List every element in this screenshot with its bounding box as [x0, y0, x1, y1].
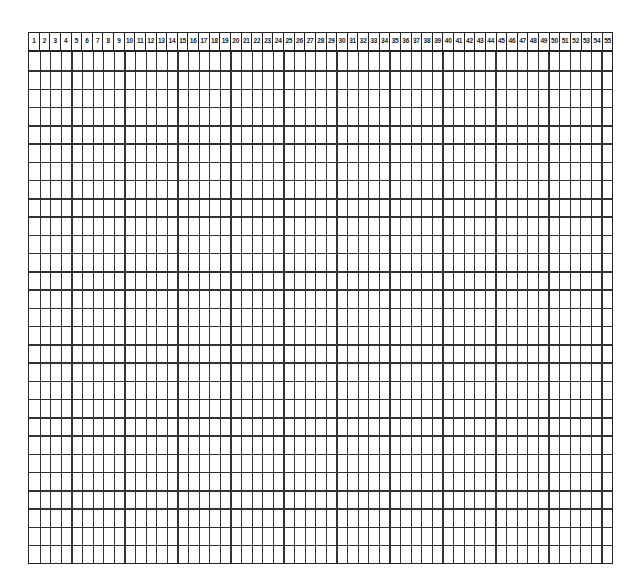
grid-horizontal-line — [29, 472, 612, 474]
grid-horizontal-line — [29, 289, 612, 291]
column-header-cell: 17 — [199, 33, 210, 50]
grid-horizontal-line — [29, 70, 612, 72]
column-header-cell: 41 — [454, 33, 465, 50]
column-header-cell: 46 — [507, 33, 518, 50]
column-header-cell: 45 — [497, 33, 508, 50]
column-header-cell: 29 — [327, 33, 338, 50]
column-header-cell: 1 — [29, 33, 40, 50]
grid-horizontal-line — [29, 162, 612, 164]
column-header-cell: 23 — [263, 33, 274, 50]
column-header-cell: 49 — [539, 33, 550, 50]
column-header-cell: 4 — [61, 33, 72, 50]
column-header-cell: 20 — [231, 33, 242, 50]
column-header-cell: 8 — [103, 33, 114, 50]
column-number-header: 1234567891011121314151617181920212223242… — [29, 33, 612, 52]
grid-horizontal-line — [29, 143, 612, 145]
column-header-cell: 31 — [348, 33, 359, 50]
column-header-cell: 36 — [401, 33, 412, 50]
column-header-cell: 42 — [465, 33, 476, 50]
grid-horizontal-line — [29, 490, 612, 492]
column-header-cell: 52 — [571, 33, 582, 50]
column-header-cell: 54 — [592, 33, 603, 50]
column-header-cell: 21 — [242, 33, 253, 50]
column-header-cell: 51 — [560, 33, 571, 50]
column-header-cell: 2 — [40, 33, 51, 50]
grid-sheet: 1234567891011121314151617181920212223242… — [28, 32, 613, 564]
column-header-cell: 19 — [220, 33, 231, 50]
grid-horizontal-line — [29, 326, 612, 328]
grid-horizontal-line — [29, 180, 612, 182]
column-header-cell: 3 — [50, 33, 61, 50]
grid-horizontal-line — [29, 235, 612, 237]
grid-horizontal-line — [29, 344, 612, 346]
column-header-cell: 35 — [390, 33, 401, 50]
grid-horizontal-line — [29, 454, 612, 456]
column-header-cell: 32 — [358, 33, 369, 50]
column-header-cell: 16 — [188, 33, 199, 50]
grid-horizontal-line — [29, 545, 612, 547]
column-header-cell: 48 — [528, 33, 539, 50]
column-header-cell: 13 — [157, 33, 168, 50]
column-header-cell: 25 — [284, 33, 295, 50]
grid-horizontal-line — [29, 125, 612, 127]
grid-body — [29, 52, 612, 563]
grid-horizontal-line — [29, 527, 612, 529]
column-header-cell: 53 — [582, 33, 593, 50]
column-header-cell: 27 — [305, 33, 316, 50]
column-header-cell: 6 — [82, 33, 93, 50]
grid-horizontal-line — [29, 508, 612, 510]
column-header-cell: 22 — [252, 33, 263, 50]
grid-horizontal-line — [29, 253, 612, 255]
column-header-cell: 38 — [422, 33, 433, 50]
grid-horizontal-line — [29, 417, 612, 419]
column-header-cell: 24 — [273, 33, 284, 50]
grid-horizontal-line — [29, 107, 612, 109]
column-header-cell: 7 — [93, 33, 104, 50]
column-header-cell: 26 — [295, 33, 306, 50]
grid-horizontal-line — [29, 435, 612, 437]
column-header-cell: 11 — [135, 33, 146, 50]
grid-horizontal-line — [29, 89, 612, 91]
grid-horizontal-line — [29, 198, 612, 200]
grid-horizontal-line — [29, 362, 612, 364]
column-header-cell: 5 — [72, 33, 83, 50]
column-header-cell: 30 — [337, 33, 348, 50]
column-header-cell: 10 — [125, 33, 136, 50]
column-header-cell: 44 — [486, 33, 497, 50]
column-header-cell: 43 — [475, 33, 486, 50]
column-header-cell: 47 — [518, 33, 529, 50]
column-header-cell: 37 — [412, 33, 423, 50]
column-header-cell: 15 — [178, 33, 189, 50]
column-header-cell: 9 — [114, 33, 125, 50]
grid-horizontal-line — [29, 399, 612, 401]
column-header-cell: 55 — [603, 33, 613, 50]
column-header-cell: 39 — [433, 33, 444, 50]
column-header-cell: 18 — [210, 33, 221, 50]
grid-horizontal-line — [29, 381, 612, 383]
column-header-cell: 12 — [146, 33, 157, 50]
grid-horizontal-line — [29, 216, 612, 218]
grid-horizontal-line — [29, 308, 612, 310]
column-header-cell: 33 — [369, 33, 380, 50]
column-header-cell: 14 — [167, 33, 178, 50]
column-header-cell: 50 — [550, 33, 561, 50]
grid-horizontal-line — [29, 271, 612, 273]
column-header-cell: 40 — [443, 33, 454, 50]
column-header-cell: 28 — [316, 33, 327, 50]
column-header-cell: 34 — [380, 33, 391, 50]
